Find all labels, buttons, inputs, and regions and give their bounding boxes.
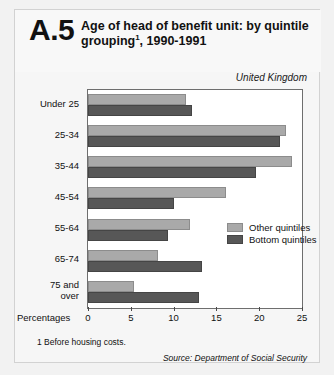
axis-tick [88, 307, 89, 311]
bar-other-quintiles [88, 125, 286, 136]
legend-swatch [227, 223, 243, 232]
category-label: 75 andover [15, 280, 79, 301]
bar-bottom-quintiles [88, 136, 280, 147]
bar-bottom-quintiles [88, 105, 192, 116]
footnote: 1 Before housing costs. [37, 337, 126, 347]
bar-other-quintiles [88, 156, 292, 167]
category-axis-labels: Under 2525-3435-4445-5455-6465-7475 ando… [15, 89, 83, 307]
axis-tick-label: 5 [128, 312, 133, 323]
figure-header: A.5 Age of head of benefit unit: by quin… [15, 10, 321, 72]
bar-bottom-quintiles [88, 230, 168, 241]
bar-other-quintiles [88, 250, 158, 261]
category-label: 55-64 [15, 223, 79, 233]
bar-other-quintiles [88, 281, 134, 292]
bar-other-quintiles [88, 187, 226, 198]
chart-subtitle: United Kingdom [15, 72, 307, 83]
figure-number: A.5 [29, 15, 74, 45]
figure-card: A.5 Age of head of benefit unit: by quin… [14, 9, 320, 363]
legend-label: Other quintiles [249, 222, 310, 233]
title-line-2: grouping [81, 34, 135, 48]
bar-bottom-quintiles [88, 198, 174, 209]
title-line-1: Age of head of benefit unit: by quintile [81, 19, 309, 33]
source-note: Source: Department of Social Security [163, 353, 307, 363]
bars-container [88, 90, 302, 308]
axis-tick-label: 25 [297, 312, 308, 323]
bar-other-quintiles [88, 94, 186, 105]
category-label: Under 25 [15, 99, 79, 109]
axis-tick [174, 307, 175, 311]
axis-tick [302, 307, 303, 311]
axis-tick-label: 20 [254, 312, 265, 323]
figure-title: Age of head of benefit unit: by quintile… [81, 19, 309, 50]
bar-bottom-quintiles [88, 261, 202, 272]
category-label: 35-44 [15, 161, 79, 171]
axis-tick-label: 0 [85, 312, 90, 323]
category-label: 25-34 [15, 130, 79, 140]
legend-swatch [227, 235, 243, 244]
legend-label: Bottom quintiles [249, 234, 317, 245]
plot-area [87, 89, 303, 309]
axis-tick-label: 15 [211, 312, 222, 323]
bar-bottom-quintiles [88, 167, 256, 178]
x-axis-title: Percentages [17, 312, 70, 323]
axis-tick [131, 307, 132, 311]
category-label: 45-54 [15, 192, 79, 202]
axis-tick [216, 307, 217, 311]
bar-other-quintiles [88, 219, 190, 230]
axis-tick [259, 307, 260, 311]
title-line-2-rest: , 1990-1991 [140, 34, 207, 48]
page-background: A.5 Age of head of benefit unit: by quin… [0, 0, 334, 375]
axis-tick-label: 10 [168, 312, 179, 323]
value-axis: 0510152025 [87, 307, 303, 333]
bar-bottom-quintiles [88, 292, 199, 303]
category-label: 65-74 [15, 254, 79, 264]
